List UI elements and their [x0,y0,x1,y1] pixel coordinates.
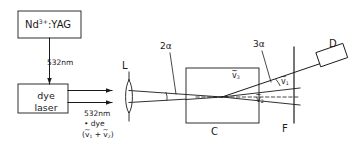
pump-wavelength-label: 532nm [47,59,73,67]
detector-label: D [329,39,337,49]
wavenumber-v3-label: ~v3 [232,72,240,80]
tilde-icon: ~ [103,126,109,133]
input-wavelength-label: 532nm [84,110,110,118]
leader-3alpha [262,51,271,82]
dye-laser-label-line2: laser [24,103,68,113]
dye-laser-label-line1: dye [24,91,68,101]
cell-label: C [211,127,218,137]
dye-laser-label: dye laser [24,91,68,112]
lens-label: L [122,61,128,71]
tilde-icon: ~ [280,73,286,81]
tilde-icon: ~ [84,126,90,133]
input-wavenumber-sum-label: (~v1 + ~v2) [82,131,114,139]
pump-laser-label: Nd3+:YAG [25,20,71,30]
figure-canvas: Nd3+:YAG dye laser 532nm 532nm • dye (~v… [0,0,358,153]
filter-label: F [282,124,288,134]
crossing-angle-label: 2α [160,42,172,51]
output-angle-label: 3α [253,40,265,49]
lens-element [126,72,133,121]
leader-2alpha [170,53,176,94]
wavenumber-v2-label: ~v2 [256,96,264,104]
tilde-icon: ~ [255,91,261,99]
tilde-icon: ~ [231,67,237,75]
wavenumber-v1-label: ~v1 [281,78,289,86]
angle-arc-2alpha [166,93,167,101]
